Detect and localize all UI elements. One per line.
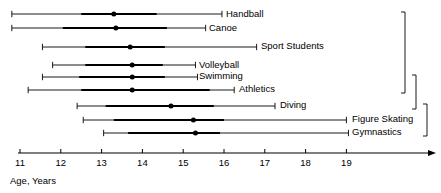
series-row-handball: [12, 11, 222, 17]
row-label-gymnastics: Gymnastics: [352, 127, 402, 137]
series-row-figure-skating: [83, 117, 346, 123]
row-label-swimming: Swimming: [199, 71, 243, 81]
row-label-figure-skating: Figure Skating: [352, 114, 413, 124]
x-tick-label-16: 16: [212, 158, 236, 168]
row-label-sport-students: Sport Students: [261, 41, 324, 51]
range-plot-chart: Handball Canoe Sport Students Volleyball…: [0, 0, 441, 193]
median-marker: [111, 12, 116, 17]
row-label-handball: Handball: [226, 9, 264, 19]
row-label-athletics: Athletics: [239, 84, 275, 94]
series-row-gymnastics: [104, 130, 349, 136]
axis-arrow-icon: [428, 150, 436, 156]
median-marker: [130, 75, 135, 80]
x-tick-label-14: 14: [130, 158, 154, 168]
median-marker: [193, 131, 198, 136]
group-bracket-3: [423, 104, 427, 136]
row-label-canoe: Canoe: [209, 23, 237, 33]
series-row-swimming: [42, 74, 197, 80]
series-row-volleyball: [53, 62, 196, 68]
x-tick-label-13: 13: [90, 158, 114, 168]
x-tick-label-17: 17: [253, 158, 277, 168]
series-row-sport-students: [42, 44, 256, 50]
x-axis: [18, 149, 436, 156]
median-marker: [113, 26, 118, 31]
row-label-diving: Diving: [280, 100, 306, 110]
x-tick-label-19: 19: [334, 158, 358, 168]
x-tick-label-11: 11: [8, 158, 32, 168]
median-marker: [168, 104, 173, 109]
series-row-canoe: [12, 25, 206, 31]
median-marker: [130, 88, 135, 93]
x-tick-label-15: 15: [171, 158, 195, 168]
median-marker: [130, 63, 135, 68]
x-axis-title: Age, Years: [10, 176, 56, 186]
row-label-volleyball: Volleyball: [199, 60, 239, 70]
series-row-diving: [77, 103, 275, 109]
group-bracket-2: [412, 75, 416, 109]
x-tick-label-12: 12: [49, 158, 73, 168]
median-marker: [128, 45, 133, 50]
series-row-athletics: [28, 87, 234, 93]
x-tick-label-18: 18: [294, 158, 318, 168]
median-marker: [191, 118, 196, 123]
group-bracket-1: [401, 12, 405, 93]
series-group: [12, 11, 349, 136]
